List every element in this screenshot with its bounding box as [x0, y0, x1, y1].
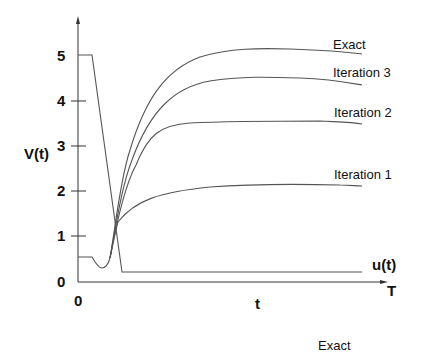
x-tick-label-0: 0	[74, 292, 82, 309]
label-exact: Exact	[333, 37, 366, 52]
caption: Exact	[318, 338, 351, 353]
y-tick-label-4: 4	[57, 92, 66, 109]
label-iteration-2: Iteration 2	[334, 105, 392, 120]
series-initial-segment	[78, 257, 110, 268]
y-tick-label-2: 2	[57, 182, 65, 199]
y-axis-label: V(t)	[24, 145, 49, 162]
label-u: u(t)	[372, 256, 396, 273]
label-iteration-3: Iteration 3	[333, 65, 391, 80]
series-iteration-1	[110, 184, 362, 258]
y-tick-label-3: 3	[57, 137, 65, 154]
x-tick-label-T: T	[387, 282, 396, 299]
series-iteration-2	[110, 121, 362, 258]
y-tick-label-1: 1	[57, 227, 65, 244]
series-u	[78, 55, 362, 272]
y-axis-arrow-icon	[76, 16, 80, 24]
chart: 0 1 2 3 4 5 0 T V(t) t Exact Iteration 3…	[0, 0, 431, 360]
label-iteration-1: Iteration 1	[334, 167, 392, 182]
y-tick-label-5: 5	[57, 47, 65, 64]
y-tick-label-0: 0	[57, 273, 65, 290]
x-axis-label: t	[255, 295, 260, 312]
